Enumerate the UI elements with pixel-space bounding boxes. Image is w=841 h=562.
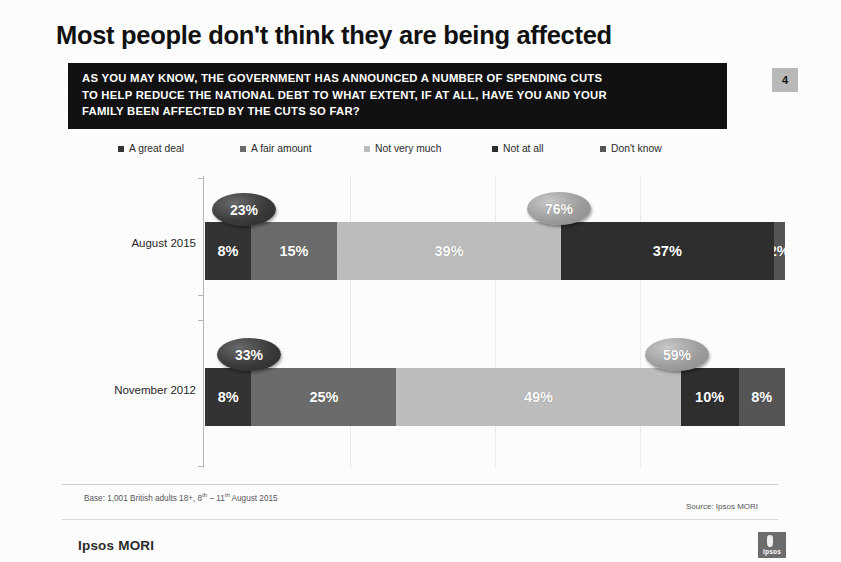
chart-gridline (350, 176, 351, 468)
bar-segment[interactable]: 8% (739, 368, 785, 426)
axis-tick (198, 295, 203, 296)
bar-segment-value: 49% (524, 389, 553, 405)
legend-label: A great deal (129, 143, 184, 154)
category-label-1: August 2015 (80, 237, 196, 249)
callout-value: 59% (663, 347, 691, 363)
bar-segment-value: 39% (435, 243, 464, 259)
bar-segment[interactable]: 37% (561, 222, 773, 280)
question-line-3: FAMILY BEEN AFFECTED BY THE CUTS SO FAR? (82, 103, 717, 120)
axis-tick (198, 178, 203, 179)
question-line-2: TO HELP REDUCE THE NATIONAL DEBT TO WHAT… (82, 87, 717, 104)
footer-divider-bottom (62, 519, 778, 520)
chart-gridline (640, 176, 641, 468)
logo-word: Ipsos (763, 548, 781, 555)
bar-segment[interactable]: 39% (337, 222, 561, 280)
legend-item-a-fair-amount[interactable]: A fair amount (240, 143, 312, 154)
bar-segment-value: 8% (218, 389, 239, 405)
base-note: Base: 1,001 British adults 18+, 8th – 11… (84, 492, 278, 503)
brand-wordmark: Ipsos MORI (78, 538, 154, 553)
legend-item-not-very-much[interactable]: Not very much (364, 143, 441, 154)
bar-segment[interactable]: 8% (205, 222, 251, 280)
stacked-bar-2: 8%25%49%10%8% (205, 368, 785, 426)
logo-flame-mark (767, 535, 773, 547)
slide-canvas: Most people don't think they are being a… (0, 0, 841, 562)
legend-item-a-great-deal[interactable]: A great deal (118, 143, 184, 154)
bar-segment-value: 2% (774, 243, 785, 259)
chart-legend: A great dealA fair amountNot very muchNo… (118, 143, 718, 163)
legend-swatch-icon (600, 146, 606, 152)
question-banner: AS YOU MAY KNOW, THE GOVERNMENT HAS ANNO… (68, 63, 727, 129)
callout-bubble: 59% (645, 338, 709, 371)
bar-segment[interactable]: 15% (251, 222, 337, 280)
bar-segment[interactable]: 25% (251, 368, 396, 426)
legend-swatch-icon (118, 146, 124, 152)
callout-value: 23% (230, 202, 258, 218)
axis-tick (198, 320, 203, 321)
legend-swatch-icon (240, 146, 246, 152)
bar-segment-value: 10% (695, 389, 724, 405)
callout-bubble: 76% (527, 192, 591, 225)
bar-segment[interactable]: 2% (774, 222, 785, 280)
bar-segment[interactable]: 49% (396, 368, 680, 426)
axis-tick (198, 466, 203, 467)
legend-label: Don't know (611, 143, 662, 154)
bar-segment-value: 25% (309, 389, 338, 405)
source-note: Source: Ipsos MORI (686, 502, 758, 511)
category-axis-line (203, 176, 204, 468)
chart-gridline (495, 176, 496, 468)
bar-segment-value: 8% (217, 243, 238, 259)
callout-value: 76% (545, 201, 573, 217)
legend-label: Not at all (503, 143, 544, 154)
legend-label: Not very much (375, 143, 441, 154)
bar-segment-value: 15% (279, 243, 308, 259)
bar-segment[interactable]: 8% (205, 368, 251, 426)
bar-segment[interactable]: 10% (681, 368, 739, 426)
ipsos-logo-icon: Ipsos (758, 532, 786, 558)
legend-swatch-icon (364, 146, 370, 152)
page-title: Most people don't think they are being a… (56, 21, 612, 50)
callout-bubble: 23% (212, 193, 276, 226)
callout-bubble: 33% (217, 338, 281, 371)
legend-item-don-t-know[interactable]: Don't know (600, 143, 662, 154)
question-line-1: AS YOU MAY KNOW, THE GOVERNMENT HAS ANNO… (82, 70, 717, 87)
category-label-2: November 2012 (80, 384, 196, 396)
page-number-badge: 4 (772, 68, 798, 92)
legend-item-not-at-all[interactable]: Not at all (492, 143, 544, 154)
footer-divider-top (62, 484, 778, 485)
legend-swatch-icon (492, 146, 498, 152)
bar-segment-value: 37% (653, 243, 682, 259)
legend-label: A fair amount (251, 143, 312, 154)
bar-segment-value: 8% (751, 389, 772, 405)
callout-value: 33% (235, 347, 263, 363)
stacked-bar-1: 8%15%39%37%2% (205, 222, 785, 280)
